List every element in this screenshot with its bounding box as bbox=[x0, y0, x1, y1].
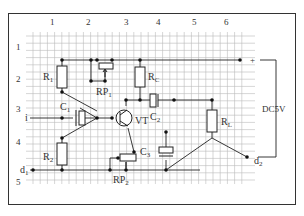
resistor-rl bbox=[207, 110, 217, 132]
label-rc: RC bbox=[148, 71, 160, 84]
label-r2: R2 bbox=[43, 151, 54, 164]
col-label-1: 1 bbox=[50, 17, 55, 27]
col-label-4: 4 bbox=[156, 17, 161, 27]
potentiometer-rp2 bbox=[120, 154, 136, 161]
col-label-6: 6 bbox=[224, 17, 229, 27]
row-label-1: 1 bbox=[16, 42, 21, 52]
terminal-d1: d1 bbox=[20, 164, 29, 177]
rp1-wiper-icon bbox=[103, 69, 107, 77]
plus-terminal: + bbox=[250, 55, 255, 65]
capacitor-c1 bbox=[76, 110, 85, 126]
resistor-r1 bbox=[57, 66, 67, 88]
label-rp1: RP1 bbox=[96, 86, 112, 99]
resistor-r2 bbox=[57, 143, 67, 165]
label-c3: C3 bbox=[140, 146, 151, 159]
row-label-5: 5 bbox=[16, 177, 21, 187]
capacitor-c3 bbox=[159, 147, 173, 156]
label-r1: R1 bbox=[43, 71, 54, 84]
row-label-2: 2 bbox=[16, 74, 21, 84]
label-vt: VT bbox=[135, 115, 148, 126]
transistor-vt bbox=[116, 110, 132, 126]
column-labels: 1 2 3 4 5 6 bbox=[50, 17, 229, 27]
col-label-2: 2 bbox=[86, 17, 91, 27]
row-label-4: 4 bbox=[16, 137, 21, 147]
row-label-3: 3 bbox=[16, 104, 21, 114]
col-label-3: 3 bbox=[124, 17, 129, 27]
circuit-diagram: 1 2 3 4 5 6 1 2 3 4 5 bbox=[0, 0, 304, 216]
potentiometer-rp1 bbox=[99, 63, 113, 69]
supply-label: DC5V bbox=[262, 104, 286, 114]
resistor-rc bbox=[135, 67, 145, 87]
terminal-input: i bbox=[25, 112, 28, 123]
label-rl: RL bbox=[221, 116, 232, 129]
col-label-5: 5 bbox=[192, 17, 197, 27]
